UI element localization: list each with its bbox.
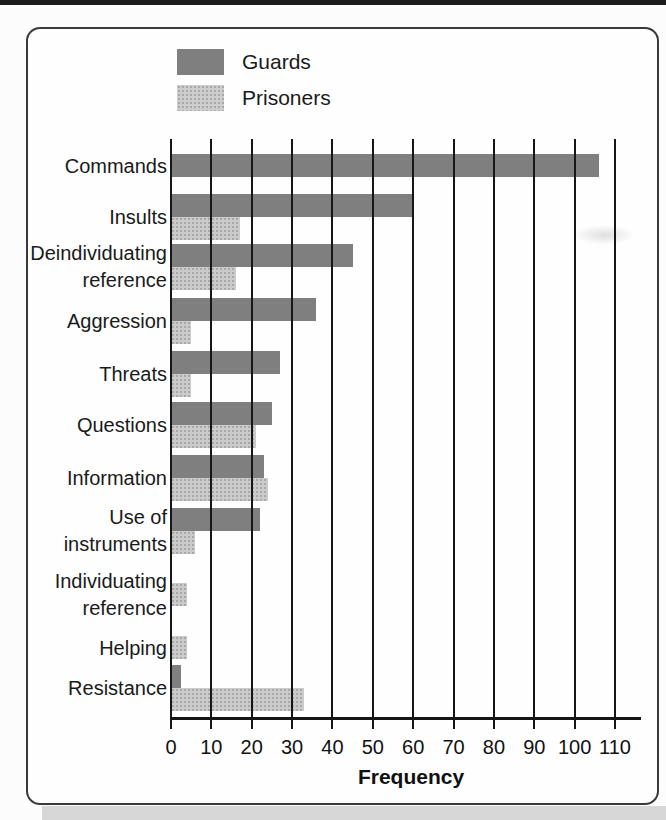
tick-label-0: 0 (165, 735, 176, 759)
tick-label-100: 100 (558, 735, 591, 759)
tick-label-60: 60 (402, 735, 424, 759)
tick-label-40: 40 (321, 735, 343, 759)
tick-label-10: 10 (200, 735, 222, 759)
figure-card: Guards Prisoners CommandsInsultsDeindivi… (26, 27, 659, 805)
gridline-30 (291, 139, 293, 720)
bar-prisoners-threats (171, 374, 191, 397)
bar-prisoners-use-of (171, 531, 195, 554)
bar-guards-aggression (171, 298, 316, 321)
legend-label-prisoners: Prisoners (242, 85, 331, 111)
bar-guards-use-of (171, 508, 260, 531)
category-label-aggression: Aggression (28, 308, 167, 335)
tick-label-90: 90 (523, 735, 545, 759)
gridline-50 (372, 139, 374, 720)
category-label-questions: Questions (28, 412, 167, 439)
bar-prisoners-information (171, 478, 268, 501)
gridline-20 (251, 139, 253, 720)
gridline-80 (493, 139, 495, 720)
bar-prisoners-aggression (171, 321, 191, 344)
bar-guards-threats (171, 351, 280, 374)
bar-prisoners-resistance (171, 688, 304, 711)
category-label-insults: Insults (28, 204, 167, 231)
x-axis-title: Frequency (171, 765, 651, 789)
category-label-information: Information (28, 465, 167, 492)
category-label-individuating: Individuating reference (28, 568, 167, 622)
legend-swatch-guards (177, 49, 224, 75)
bar-prisoners-insults (171, 217, 240, 240)
gridline-70 (453, 139, 455, 720)
category-label-helping: Helping (28, 634, 167, 661)
bar-guards-deindividuating (171, 244, 353, 267)
gridline-110 (614, 139, 616, 720)
tick-label-70: 70 (442, 735, 464, 759)
x-axis-line (171, 717, 641, 720)
gridline-90 (533, 139, 535, 720)
gridline-60 (412, 139, 414, 720)
bar-prisoners-individuating (171, 583, 187, 606)
gridline-40 (331, 139, 333, 720)
category-label-use-of: Use of instruments (28, 504, 167, 558)
x-axis-tick-labels: 0102030405060708090100110 (171, 735, 651, 761)
bar-guards-questions (171, 402, 272, 425)
legend-label-guards: Guards (242, 49, 311, 75)
page-bottom-band (42, 806, 666, 820)
category-label-resistance: Resistance (28, 675, 167, 702)
bar-prisoners-questions (171, 425, 256, 448)
scan-smudge (573, 225, 635, 245)
tick-label-50: 50 (362, 735, 384, 759)
tick-label-80: 80 (483, 735, 505, 759)
bar-prisoners-deindividuating (171, 267, 236, 290)
gridline-0 (170, 139, 172, 720)
tick-label-110: 110 (599, 735, 631, 759)
category-label-threats: Threats (28, 361, 167, 388)
bar-prisoners-helping (171, 636, 187, 659)
tick-label-20: 20 (241, 735, 263, 759)
category-label-deindividuating: Deindividuating reference (28, 240, 167, 294)
category-labels: CommandsInsultsDeindividuating reference… (28, 139, 167, 720)
category-label-commands: Commands (28, 152, 167, 179)
gridline-10 (210, 139, 212, 720)
gridline-100 (574, 139, 576, 720)
legend-swatch-prisoners (177, 85, 224, 111)
page-top-edge (0, 0, 666, 5)
tick-label-30: 30 (281, 735, 303, 759)
bar-guards-resistance (171, 665, 181, 688)
